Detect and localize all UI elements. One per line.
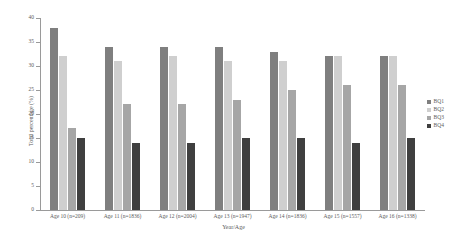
bar-bq4 <box>407 138 415 210</box>
bar-bq2 <box>59 56 67 210</box>
legend-item-bq3: BQ3 <box>427 115 444 121</box>
bar-group: Age 16 (n=1338) <box>370 18 425 210</box>
legend-swatch-icon <box>427 116 431 120</box>
bar-bq3 <box>343 85 351 210</box>
legend-swatch-icon <box>427 100 431 104</box>
bar-bq2 <box>389 56 397 210</box>
bar-bq3 <box>233 100 241 210</box>
bar-group: Age 10 (n=209) <box>40 18 95 210</box>
x-tick-label: Age 11 (n=1836) <box>104 214 142 220</box>
x-axis-title: Year/Age <box>0 224 467 230</box>
bar-group: Age 11 (n=1836) <box>95 18 150 210</box>
legend-swatch-icon <box>427 108 431 112</box>
y-tick-label: 35 <box>29 39 35 45</box>
bar-bq1 <box>325 56 333 210</box>
x-tick-label: Age 14 (n=1836) <box>269 214 307 220</box>
y-tick-label: 30 <box>29 63 35 69</box>
bar-bq4 <box>352 143 360 210</box>
bar-bq4 <box>297 138 305 210</box>
bar-bq1 <box>160 47 168 210</box>
bar-chart: Total percentage (%) 0510152025303540 Ag… <box>0 0 467 242</box>
bar-bq1 <box>50 28 58 210</box>
y-tick-label: 15 <box>29 135 35 141</box>
x-tick-label: Age 16 (n=1338) <box>379 214 417 220</box>
y-tick-label: 40 <box>29 15 35 21</box>
plot-area: 0510152025303540 Age 10 (n=209)Age 11 (n… <box>40 18 425 210</box>
legend-label: BQ3 <box>434 115 444 121</box>
legend-label: BQ4 <box>434 123 444 129</box>
bar-bq3 <box>288 90 296 210</box>
y-tick-label: 0 <box>31 207 34 213</box>
y-tick-mark <box>36 210 40 211</box>
bar-bq1 <box>380 56 388 210</box>
x-axis-line <box>40 210 425 211</box>
bar-bq4 <box>242 138 250 210</box>
bar-bq3 <box>178 104 186 210</box>
bar-bq3 <box>398 85 406 210</box>
y-tick-label: 25 <box>29 87 35 93</box>
bar-bq2 <box>114 61 122 210</box>
legend-item-bq4: BQ4 <box>427 123 444 129</box>
bar-groups: Age 10 (n=209)Age 11 (n=1836)Age 12 (n=2… <box>40 18 425 210</box>
bar-group: Age 14 (n=1836) <box>260 18 315 210</box>
bar-group: Age 15 (n=1557) <box>315 18 370 210</box>
bar-bq1 <box>215 47 223 210</box>
y-tick-label: 20 <box>29 111 35 117</box>
bar-bq4 <box>77 138 85 210</box>
y-tick-label: 10 <box>29 159 35 165</box>
y-tick-label: 5 <box>31 183 34 189</box>
x-tick-label: Age 13 (n=1947) <box>214 214 252 220</box>
bar-bq4 <box>132 143 140 210</box>
bar-bq3 <box>123 104 131 210</box>
bar-group: Age 12 (n=2004) <box>150 18 205 210</box>
bar-bq4 <box>187 143 195 210</box>
legend-label: BQ1 <box>434 99 444 105</box>
legend-label: BQ2 <box>434 107 444 113</box>
x-tick-label: Age 10 (n=209) <box>50 214 85 220</box>
bar-bq3 <box>68 128 76 210</box>
bar-group: Age 13 (n=1947) <box>205 18 260 210</box>
legend-item-bq1: BQ1 <box>427 99 444 105</box>
bar-bq2 <box>169 56 177 210</box>
bar-bq1 <box>105 47 113 210</box>
chart-legend: BQ1BQ2BQ3BQ4 <box>427 99 444 129</box>
legend-swatch-icon <box>427 124 431 128</box>
bar-bq2 <box>224 61 232 210</box>
x-tick-label: Age 12 (n=2004) <box>159 214 197 220</box>
bar-bq1 <box>270 52 278 210</box>
bar-bq2 <box>279 61 287 210</box>
legend-item-bq2: BQ2 <box>427 107 444 113</box>
bar-bq2 <box>334 56 342 210</box>
x-tick-label: Age 15 (n=1557) <box>324 214 362 220</box>
